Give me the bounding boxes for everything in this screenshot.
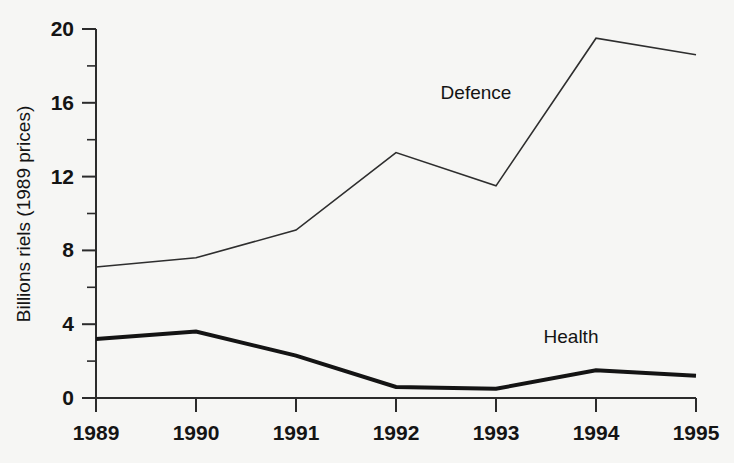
chart-background — [0, 0, 734, 463]
x-tick-label-1991: 1991 — [273, 421, 320, 444]
x-tick-label-1989: 1989 — [73, 421, 120, 444]
x-tick-label-1992: 1992 — [373, 421, 420, 444]
x-tick-label-1995: 1995 — [673, 421, 720, 444]
x-tick-label-1994: 1994 — [573, 421, 620, 444]
y-tick-label-12: 12 — [51, 165, 74, 188]
y-tick-label-0: 0 — [62, 386, 74, 409]
line-chart: 0 4 8 12 16 20 1989 1990 1991 1992 1993 … — [0, 0, 734, 463]
series-label-defence: Defence — [441, 82, 512, 103]
y-axis-title: Billions riels (1989 prices) — [13, 106, 34, 322]
y-tick-label-8: 8 — [62, 238, 74, 261]
chart-container: 0 4 8 12 16 20 1989 1990 1991 1992 1993 … — [0, 0, 734, 463]
y-tick-label-20: 20 — [51, 17, 74, 40]
y-tick-label-4: 4 — [62, 312, 74, 335]
series-label-health: Health — [544, 326, 599, 347]
x-tick-label-1990: 1990 — [173, 421, 220, 444]
x-tick-label-1993: 1993 — [473, 421, 520, 444]
y-tick-label-16: 16 — [51, 91, 74, 114]
